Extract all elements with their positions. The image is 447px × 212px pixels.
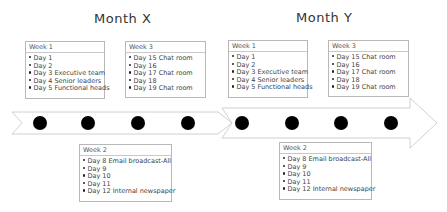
month-x-week2-card: Week 2 Day 8 Email broadcast-All Day 9 D… (79, 144, 172, 202)
card-header: Week 1 (229, 41, 307, 52)
month-x-week3-card: Week 3 Day 15 Chat room Day 16 Day 17 Ch… (125, 41, 206, 98)
bullet-icon (332, 78, 334, 80)
bullet-icon (283, 157, 285, 159)
milestone-dot (81, 116, 95, 130)
bullet-icon (283, 180, 285, 182)
bullet-icon (83, 167, 85, 169)
bullet-icon (129, 71, 131, 73)
bullet-icon (232, 55, 234, 57)
month-y-week1-card: Week 1 Day 1 Day 2 Day 3 Executive team … (228, 40, 308, 98)
list-item: Day 12 Internal newspaper (83, 188, 169, 196)
milestone-dot (384, 116, 398, 130)
card-header: Week 2 (280, 143, 371, 154)
bullet-icon (283, 187, 285, 189)
bullet-icon (29, 64, 31, 66)
bullet-icon (129, 56, 131, 58)
list-item: Day 5 Functional heads (232, 84, 305, 92)
milestone-dot (33, 116, 47, 130)
bullet-icon (232, 85, 234, 87)
month-y-week2-card: Week 2 Day 8 Email broadcast-All Day 9 D… (279, 142, 372, 200)
month-x-week1-card: Week 1 Day 1 Day 2 Day 3 Executive team … (25, 41, 105, 99)
list-item: Day 12 Internal newspaper (283, 186, 369, 194)
list-item: Day 5 Functional heads (29, 85, 102, 93)
bullet-icon (232, 78, 234, 80)
card-header: Week 3 (126, 42, 205, 53)
bullet-icon (332, 70, 334, 72)
bullet-icon (83, 182, 85, 184)
bullet-icon (29, 86, 31, 88)
milestone-dot (131, 116, 145, 130)
month-x-title: Month X (94, 11, 151, 26)
month-y-title: Month Y (296, 10, 352, 25)
milestone-dot (334, 116, 348, 130)
card-header: Week 3 (329, 41, 408, 52)
timeline-arrows (0, 0, 447, 212)
month-y-arrow (222, 98, 437, 148)
bullet-icon (232, 70, 234, 72)
bullet-icon (129, 64, 131, 66)
milestone-dot (285, 116, 299, 130)
bullet-icon (83, 159, 85, 161)
milestone-dot (181, 116, 195, 130)
month-y-week3-card: Week 3 Day 15 Chat room Day 16 Day 17 Ch… (328, 40, 409, 97)
bullet-icon (29, 79, 31, 81)
bullet-icon (332, 85, 334, 87)
bullet-icon (283, 165, 285, 167)
bullet-icon (283, 172, 285, 174)
card-header: Week 2 (80, 145, 171, 156)
bullet-icon (129, 86, 131, 88)
milestone-dot (235, 116, 249, 130)
card-header: Week 1 (26, 42, 104, 53)
bullet-icon (332, 55, 334, 57)
bullet-icon (83, 174, 85, 176)
bullet-icon (29, 56, 31, 58)
bullet-icon (29, 71, 31, 73)
bullet-icon (129, 79, 131, 81)
bullet-icon (332, 63, 334, 65)
bullet-icon (83, 189, 85, 191)
list-item: Day 19 Chat room (129, 85, 203, 93)
list-item: Day 19 Chat room (332, 84, 406, 92)
bullet-icon (232, 63, 234, 65)
